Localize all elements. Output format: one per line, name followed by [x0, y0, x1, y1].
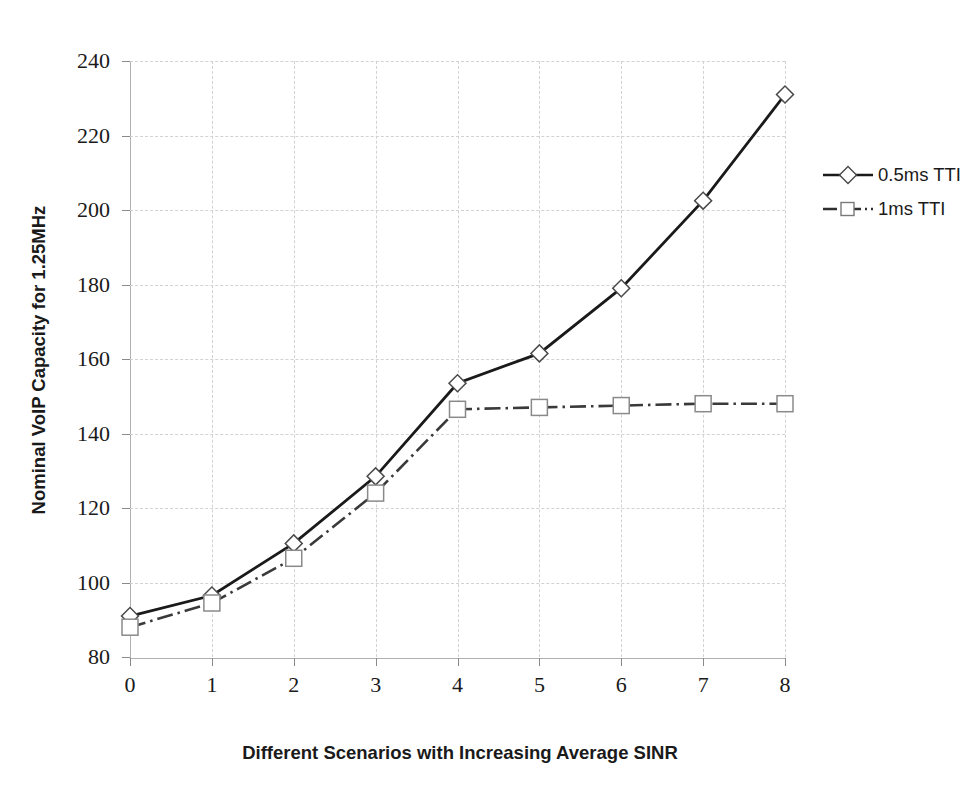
y-axis-tick: [122, 434, 130, 435]
y-axis-tick-label: 120: [46, 495, 110, 521]
x-axis-tick: [539, 658, 540, 666]
data-point-marker: [613, 398, 629, 414]
x-axis-title: Different Scenarios with Increasing Aver…: [130, 742, 790, 764]
x-axis-tick: [785, 658, 786, 666]
y-axis-tick: [122, 583, 130, 584]
x-axis-tick-label: 0: [110, 672, 150, 698]
y-axis-tick-label: 160: [46, 346, 110, 372]
legend-label-0: 0.5ms TTI: [878, 164, 961, 186]
x-axis-tick-label: 6: [601, 672, 641, 698]
data-point-marker: [531, 399, 547, 415]
x-axis-tick-label: 4: [438, 672, 478, 698]
x-axis-tick: [376, 658, 377, 666]
x-axis-tick: [621, 658, 622, 666]
line-chart: Nominal VoIP Capacity for 1.25MHz Differ…: [0, 0, 977, 794]
x-axis-tick: [703, 658, 704, 666]
legend-item-1[interactable]: 1ms TTI: [822, 192, 972, 226]
x-axis-tick-label: 3: [356, 672, 396, 698]
data-point-marker: [286, 550, 302, 566]
legend-marker-square-icon: [822, 199, 874, 219]
plot-area: [130, 61, 785, 657]
data-point-marker: [695, 396, 711, 412]
y-axis-tick: [122, 285, 130, 286]
legend-item-0[interactable]: 0.5ms TTI: [822, 158, 972, 192]
x-axis-tick-label: 2: [274, 672, 314, 698]
series-paths: [130, 61, 785, 657]
y-axis-tick: [122, 508, 130, 509]
x-axis-tick-label: 5: [519, 672, 559, 698]
x-axis-tick-label: 1: [192, 672, 232, 698]
gridline-vertical: [785, 61, 786, 657]
x-axis-tick: [294, 658, 295, 666]
y-axis-tick-label: 140: [46, 421, 110, 447]
legend: 0.5ms TTI 1ms TTI: [822, 158, 972, 226]
y-axis-tick-label: 220: [46, 123, 110, 149]
y-axis-tick-label: 240: [46, 48, 110, 74]
x-axis-tick: [212, 658, 213, 666]
y-axis-tick: [122, 136, 130, 137]
legend-marker-diamond-icon: [822, 165, 874, 185]
y-axis-tick: [122, 359, 130, 360]
x-axis-tick-label: 7: [683, 672, 723, 698]
series-line-0: [130, 95, 785, 617]
y-axis-tick-label: 80: [46, 644, 110, 670]
legend-label-1: 1ms TTI: [878, 198, 946, 220]
y-axis-tick-label: 100: [46, 570, 110, 596]
y-axis-tick: [122, 657, 130, 658]
x-axis-tick: [130, 658, 131, 666]
y-axis-tick: [122, 210, 130, 211]
data-point-marker: [204, 595, 220, 611]
y-axis-tick-label: 180: [46, 272, 110, 298]
y-axis-tick: [122, 61, 130, 62]
data-point-marker: [450, 401, 466, 417]
data-point-marker: [777, 396, 793, 412]
data-point-marker: [122, 619, 138, 635]
y-axis-tick-label: 200: [46, 197, 110, 223]
series-line-1: [130, 404, 785, 628]
data-point-marker: [368, 485, 384, 501]
x-axis-tick-label: 8: [765, 672, 805, 698]
x-axis-tick: [458, 658, 459, 666]
